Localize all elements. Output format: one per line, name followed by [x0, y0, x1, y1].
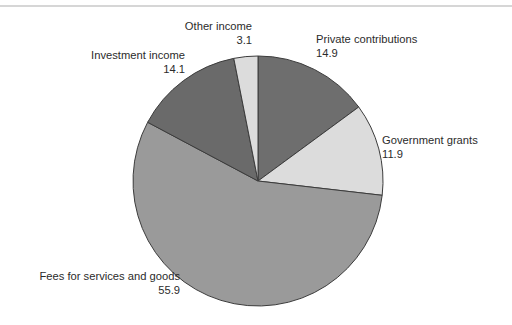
slice-label-value: 3.1 [62, 34, 252, 48]
slice-label-private-contributions: Private contributions 14.9 [316, 33, 417, 60]
slice-label-name: Private contributions [316, 33, 417, 45]
slice-label-value: 11.9 [382, 148, 478, 162]
slice-label-value: 55.9 [8, 284, 180, 298]
pie-chart-figure: Other income 3.1 Private contributions 1… [0, 0, 512, 325]
chart-plot-area: Other income 3.1 Private contributions 1… [0, 0, 512, 325]
slice-label-name: Investment income [91, 49, 185, 61]
slice-label-value: 14.1 [10, 63, 185, 77]
pie-slice-group [133, 56, 383, 306]
slice-label-value: 14.9 [316, 47, 417, 61]
slice-label-name: Other income [185, 20, 252, 32]
slice-label-name: Government grants [382, 134, 478, 146]
slice-label-fees-for-services-and-goods: Fees for services and goods 55.9 [8, 270, 180, 297]
slice-label-other-income: Other income 3.1 [62, 20, 252, 47]
slice-label-investment-income: Investment income 14.1 [10, 49, 185, 76]
slice-label-government-grants: Government grants 11.9 [382, 134, 478, 161]
slice-label-name: Fees for services and goods [39, 270, 180, 282]
